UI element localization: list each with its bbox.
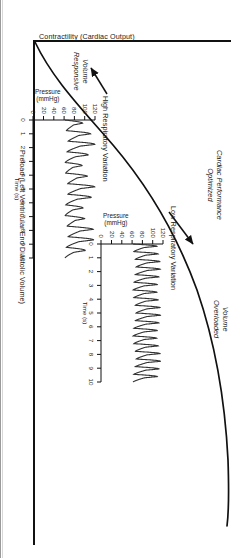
inset-high-xtick-10: 10 (20, 255, 27, 262)
inset-low-xtick-8: 8 (88, 353, 95, 357)
rotated-figure-wrapper: Contractility (Cardiac Output) Preload (… (0, 0, 239, 558)
inset-low-xtick-4: 4 (88, 297, 95, 301)
inset-low-ytick-5: 20 (109, 231, 116, 238)
inset-high-xtick-2: 2 (20, 146, 27, 150)
inset-low-waveform (133, 244, 160, 382)
inset-low-xtick-5: 5 (88, 311, 95, 315)
inset-high-y-axis-title-line2: (mmHg) (35, 95, 61, 102)
callout-volume-overloaded-line2: Overloaded (212, 300, 221, 338)
inset-high-ytick-1: 100 (82, 104, 89, 115)
inset-high-xtick-6: 6 (20, 201, 27, 205)
inset-low-xtick-10: 10 (88, 379, 95, 386)
frank-starling-figure: Contractility (Cardiac Output) Preload (… (0, 0, 239, 558)
inset-high-xtick-5: 5 (20, 187, 27, 191)
inset-high-y-axis-title: Pressure (mmHg) (35, 88, 61, 102)
annotation-label-high-respiratory-variation: High Respiratory Variation (101, 96, 110, 182)
inset-low-ytick-4: 40 (119, 231, 126, 238)
inset-high-xtick-9: 9 (20, 242, 27, 246)
inset-low-y-axis-title-line1: Pressure (103, 212, 129, 219)
callout-cardiac-performance-line1: Cardiac Performance (214, 150, 223, 220)
callout-volume-responsive-line2: Responsive (72, 52, 81, 91)
inset-high-xtick-4: 4 (20, 173, 27, 177)
inset-high-xtick-8: 8 (20, 229, 27, 233)
inset-high-xtick-0: 0 (20, 118, 27, 122)
inset-low-xtick-1: 1 (88, 256, 95, 260)
inset-low-respiratory-variation: 120 100 80 60 40 20 0 (83, 214, 165, 390)
inset-low-x-axis (97, 244, 101, 382)
callout-volume-responsive-line1: Volume (80, 52, 89, 91)
inset-high-ytick-0: 120 (92, 104, 99, 115)
inset-low-xtick-9: 9 (88, 366, 95, 370)
inset-low-xtick-3: 3 (88, 284, 95, 288)
inset-low-xtick-2: 2 (88, 270, 95, 274)
inset-high-x-axis-title: Time (s) (14, 178, 21, 200)
inset-low-ytick-1: 100 (150, 228, 157, 239)
inset-low-ytick-3: 60 (129, 231, 136, 238)
inset-high-y-axis-title-line1: Pressure (35, 88, 61, 95)
inset-low-y-axis (101, 240, 163, 244)
inset-high-ytick-3: 60 (61, 107, 68, 114)
inset-high-ytick-5: 20 (41, 107, 48, 114)
inset-high-xtick-1: 1 (20, 132, 27, 136)
callout-volume-overloaded: Volume Overloaded (212, 300, 229, 338)
callout-cardiac-performance-optimized: Cardiac Performance Optimized (206, 150, 223, 220)
annotation-label-low-respiratory-variation: Low Respiratory Variation (169, 206, 178, 290)
inset-high-x-axis (29, 120, 33, 258)
inset-low-xtick-6: 6 (88, 325, 95, 329)
figure-canvas: Contractility (Cardiac Output) Preload (… (0, 0, 239, 558)
inset-low-xtick-7: 7 (88, 339, 95, 343)
inset-low-xtick-0: 0 (88, 242, 95, 246)
inset-high-ytick-2: 80 (71, 107, 78, 114)
inset-low-x-axis-title: Time (s) (82, 302, 89, 324)
inset-high-xtick-3: 3 (20, 160, 27, 164)
inset-low-y-axis-title-line2: (mmHg) (103, 219, 129, 226)
callout-volume-responsive: Volume Responsive (72, 52, 89, 91)
inset-low-ytick-6: 0 (98, 235, 105, 239)
inset-high-ytick-4: 40 (51, 107, 58, 114)
inset-low-y-axis-title: Pressure (mmHg) (103, 212, 129, 226)
inset-high-xtick-7: 7 (20, 215, 27, 219)
inset-high-y-axis (33, 116, 95, 120)
inset-low-ytick-2: 80 (139, 231, 146, 238)
callout-cardiac-performance-line2: Optimized (206, 150, 215, 220)
callout-volume-overloaded-line1: Volume (220, 300, 229, 338)
inset-high-ytick-6: 0 (30, 111, 37, 115)
inset-low-ytick-0: 120 (160, 228, 167, 239)
